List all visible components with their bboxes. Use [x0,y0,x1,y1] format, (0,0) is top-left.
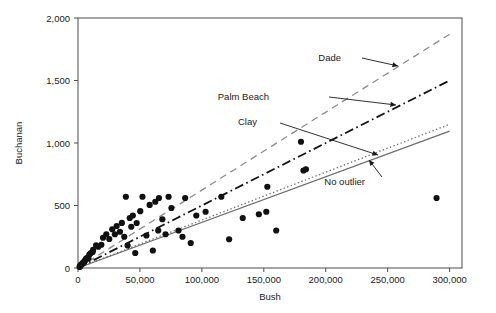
regression-line-palm-beach [78,81,450,269]
y-tick-label: 2,000 [46,13,70,24]
annotation-arrowhead [372,151,378,156]
data-point [84,255,90,261]
chart-figure: 050,000100,000150,000200,000250,000300,0… [0,0,496,313]
x-tick-label: 0 [75,274,80,285]
y-axis-title: Buchanan [13,122,24,165]
y-tick-label: 1,000 [46,138,70,149]
y-tick-label: 500 [54,200,70,211]
data-point [130,212,136,218]
annotation-label-palm-beach: Palm Beach [218,91,269,102]
x-tick-label: 100,000 [185,274,219,285]
annotation-leader [280,123,378,155]
annotation-arrowhead [369,160,374,166]
annotation-label-no-outlier: No outlier [324,176,365,187]
data-point [125,242,131,248]
data-point [168,205,174,211]
scatter-plot: 050,000100,000150,000200,000250,000300,0… [0,0,496,313]
data-point [132,250,138,256]
data-point [147,202,153,208]
data-point [298,139,304,145]
data-point [128,224,134,230]
data-point [119,220,125,226]
data-point [175,227,181,233]
data-point [162,231,168,237]
annotation-label-dade: Dade [318,52,341,63]
plot-frame [78,18,462,268]
data-point [226,236,232,242]
data-point [121,234,127,240]
annotation-leader [362,58,398,66]
data-point [263,209,269,215]
data-point [80,260,86,266]
data-point [193,212,199,218]
data-point [117,229,123,235]
x-tick-label: 150,000 [247,274,281,285]
x-tick-label: 300,000 [432,274,466,285]
data-point [156,195,162,201]
annotation-leader [329,97,396,105]
annotation-label-clay: Clay [238,116,257,127]
data-point [264,184,270,190]
y-tick-label: 1,500 [46,75,70,86]
data-point [155,227,161,233]
x-tick-label: 200,000 [309,274,343,285]
data-point [202,209,208,215]
data-point [143,232,149,238]
data-point [123,194,129,200]
data-point [150,247,156,253]
data-point [98,242,104,248]
data-point [114,223,120,229]
data-point [273,227,279,233]
data-point [137,208,143,214]
data-point [218,194,224,200]
regression-line-clay [78,124,450,268]
data-point [256,211,262,217]
data-point [139,194,145,200]
data-point [179,234,185,240]
data-point [90,249,96,255]
x-axis-title: Bush [259,291,281,302]
data-point [433,195,439,201]
data-point [303,166,309,172]
x-tick-label: 50,000 [125,274,154,285]
data-point [165,194,171,200]
y-tick-label: 0 [65,263,70,274]
data-point [106,236,112,242]
data-point [159,216,165,222]
annotation-arrowhead [390,102,396,107]
x-tick-label: 250,000 [371,274,405,285]
data-point [182,195,188,201]
data-point [240,215,246,221]
data-point [188,240,194,246]
data-point [134,220,140,226]
